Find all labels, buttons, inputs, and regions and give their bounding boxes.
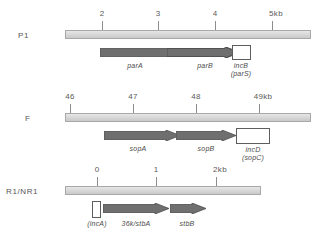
gene-name: stbB [180, 220, 195, 227]
axis-tick-label: 5kb [269, 9, 283, 18]
gene-name: parB [197, 62, 213, 69]
gene-name: sopB [198, 145, 215, 152]
axis-tick-mark [158, 21, 159, 30]
gene-label-sopb: sopB [198, 145, 215, 153]
gene-arrow-stbb [170, 203, 206, 214]
axis-tick-mark [70, 104, 71, 113]
gene-alias: (parS) [231, 70, 252, 78]
gene-box-incb [232, 45, 251, 60]
gene-label-sopa: sopA [130, 145, 147, 153]
gene-label-parb: parB [197, 62, 213, 70]
axis-tick-label: 48 [191, 92, 201, 101]
axis-tick-mark [215, 21, 216, 30]
scale-bar-r1nr1 [65, 186, 261, 195]
axis-tick-mark [216, 177, 217, 186]
plasmid-label-f: F [25, 114, 31, 123]
axis-tick-label: 3 [156, 9, 161, 18]
gene-arrow-sopb [176, 130, 236, 141]
axis-tick-mark [259, 104, 260, 113]
axis-tick-mark [97, 177, 98, 186]
gene-label-incb: incB (parS) [231, 62, 252, 78]
plasmid-label-r1nr1: R1/NR1 [6, 187, 38, 196]
axis-tick-mark [272, 21, 273, 30]
gene-label-para: parA [127, 62, 143, 70]
gene-label-36k-stba: 36k/stbA [122, 220, 151, 228]
gene-name: sopA [130, 145, 147, 152]
gene-name: incD [242, 146, 264, 154]
scale-bar-f [65, 113, 311, 122]
axis-tick-label: 1 [154, 165, 159, 174]
plasmid-row-f: F 46 47 48 49kb sopA sopB incD (s [0, 80, 321, 160]
gene-arrow-parb [167, 47, 239, 58]
axis-tick-mark [196, 104, 197, 113]
gene-arrow-sopa [104, 130, 180, 141]
axis-tick-label: 49kb [254, 92, 273, 101]
gene-name: incB [231, 62, 252, 70]
gene-box-inca [92, 201, 101, 218]
gene-arrow-36k-stba [103, 203, 169, 214]
gene-label-inca: (incA) [87, 220, 106, 228]
axis-tick-mark [102, 21, 103, 30]
axis-tick-label: 47 [128, 92, 138, 101]
axis-tick-label: 2kb [213, 165, 227, 174]
axis-tick-label: 4 [213, 9, 218, 18]
gene-name: 36k/stbA [122, 220, 151, 227]
axis-tick-label: 0 [95, 165, 100, 174]
gene-name: parA [127, 62, 143, 69]
plasmid-partition-map: P1 2 3 4 5kb parA parB [0, 0, 321, 241]
gene-label-stbb: stbB [180, 220, 195, 228]
scale-bar-p1 [65, 30, 311, 39]
plasmid-label-p1: P1 [18, 31, 29, 40]
plasmid-row-p1: P1 2 3 4 5kb parA parB [0, 0, 321, 80]
gene-name: (incA) [87, 220, 106, 227]
axis-tick-label: 2 [100, 9, 105, 18]
axis-tick-label: 46 [65, 92, 75, 101]
plasmid-row-r1nr1: R1/NR1 0 1 2kb (incA) 36k/stbA stbB [0, 160, 321, 241]
axis-tick-mark [156, 177, 157, 186]
gene-box-incd [236, 128, 270, 144]
axis-tick-mark [133, 104, 134, 113]
